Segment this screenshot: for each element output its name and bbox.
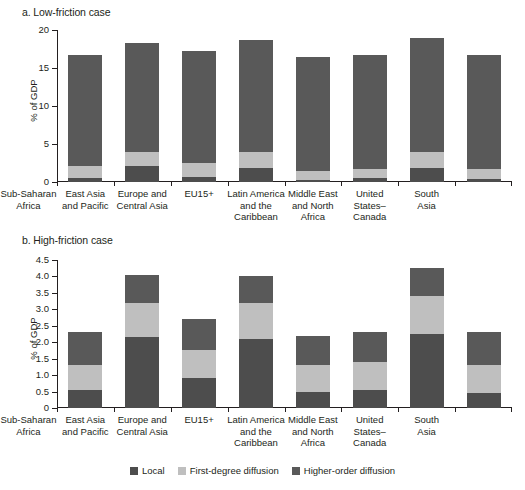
x-axis-tick — [398, 182, 399, 186]
bar-1 — [68, 55, 102, 182]
y-axis-tick-label: 20 — [38, 25, 49, 35]
panel-b-plot-area: 00.51.01.52.02.53.03.54.04.5 — [57, 260, 512, 408]
bar-segment-first-degree-diffusion — [68, 166, 102, 178]
bar-segment-higher-order-diffusion — [68, 55, 102, 166]
bar-segment-local — [239, 168, 273, 182]
legend-swatch-icon — [292, 467, 300, 475]
stacked-bar-figure: a. Low-friction case % of GDP 05101520 S… — [0, 0, 525, 490]
bar-segment-local — [410, 168, 444, 182]
y-axis-tick-label: 0.5 — [36, 387, 49, 397]
bar-segment-local — [125, 337, 159, 408]
x-axis-tick — [171, 408, 172, 412]
y-axis-tick — [52, 293, 57, 294]
x-axis-tick — [171, 182, 172, 186]
legend-item-higher-order-diffusion: Higher-order diffusion — [292, 465, 395, 476]
bar-2 — [125, 275, 159, 408]
y-axis-tick — [52, 276, 57, 277]
bar-8 — [467, 55, 501, 182]
y-axis-tick-label: 1.0 — [36, 370, 49, 380]
y-axis-tick-label: 4.5 — [36, 255, 49, 265]
x-axis-tick — [114, 408, 115, 412]
bar-segment-local — [296, 392, 330, 408]
legend-item-first-degree-diffusion: First-degree diffusion — [178, 465, 279, 476]
bar-segment-first-degree-diffusion — [296, 365, 330, 391]
x-axis-tick — [285, 182, 286, 186]
bar-segment-higher-order-diffusion — [353, 55, 387, 169]
bar-segment-local — [182, 177, 216, 182]
y-axis-tick-label: 0 — [44, 177, 49, 187]
chart-legend: LocalFirst-degree diffusionHigher-order … — [0, 465, 525, 476]
bar-5 — [296, 336, 330, 408]
bar-4 — [239, 40, 273, 182]
bar-segment-first-degree-diffusion — [410, 296, 444, 334]
x-axis-tick — [341, 182, 342, 186]
legend-label: First-degree diffusion — [190, 465, 279, 476]
bar-segment-first-degree-diffusion — [467, 365, 501, 393]
bar-segment-first-degree-diffusion — [467, 169, 501, 179]
panel-low-friction: a. Low-friction case % of GDP 05101520 S… — [0, 0, 525, 232]
legend-label: Higher-order diffusion — [304, 465, 395, 476]
bar-3 — [182, 319, 216, 408]
bar-segment-higher-order-diffusion — [239, 40, 273, 152]
y-axis-tick-label: 15 — [38, 63, 49, 73]
legend-swatch-icon — [178, 467, 186, 475]
bar-segment-first-degree-diffusion — [410, 152, 444, 168]
y-axis-tick — [52, 342, 57, 343]
bar-segment-higher-order-diffusion — [467, 332, 501, 365]
bar-segment-higher-order-diffusion — [125, 43, 159, 152]
y-axis-tick — [52, 106, 57, 107]
bar-segment-higher-order-diffusion — [410, 268, 444, 296]
bar-segment-local — [239, 339, 273, 408]
bar-segment-higher-order-diffusion — [182, 51, 216, 163]
legend-label: Local — [142, 465, 165, 476]
y-axis-tick — [52, 326, 57, 327]
y-axis-tick-label: 5 — [44, 139, 49, 149]
bar-2 — [125, 43, 159, 182]
bar-segment-first-degree-diffusion — [353, 169, 387, 178]
bar-segment-higher-order-diffusion — [125, 275, 159, 303]
bar-1 — [68, 332, 102, 408]
bar-segment-higher-order-diffusion — [296, 57, 330, 172]
y-axis-tick-label: 2.5 — [36, 321, 49, 331]
bar-6 — [353, 55, 387, 182]
x-axis-tick — [398, 408, 399, 412]
bar-segment-local — [296, 180, 330, 182]
bar-segment-first-degree-diffusion — [353, 362, 387, 390]
bar-segment-first-degree-diffusion — [182, 163, 216, 177]
y-axis-tick — [52, 260, 57, 261]
bar-segment-higher-order-diffusion — [68, 332, 102, 365]
bar-segment-first-degree-diffusion — [68, 365, 102, 390]
bar-segment-local — [410, 334, 444, 408]
y-axis-tick-label: 4.0 — [36, 272, 49, 282]
y-axis-tick — [52, 392, 57, 393]
bar-3 — [182, 51, 216, 182]
legend-swatch-icon — [130, 467, 138, 475]
x-axis-tick — [57, 408, 58, 412]
y-axis-tick-label: 0 — [44, 403, 49, 413]
bar-segment-local — [68, 390, 102, 408]
x-axis-tick — [114, 182, 115, 186]
panel-a-title: a. Low-friction case — [22, 6, 110, 18]
x-axis-tick — [228, 182, 229, 186]
x-axis-tick — [511, 408, 512, 412]
x-axis-tick — [341, 408, 342, 412]
x-axis-tick — [455, 408, 456, 412]
bar-8 — [467, 332, 501, 408]
bar-7 — [410, 268, 444, 408]
y-axis-tick-label: 2.0 — [36, 337, 49, 347]
panel-b-title: b. High-friction case — [22, 234, 113, 246]
bar-segment-first-degree-diffusion — [125, 303, 159, 338]
bar-7 — [410, 38, 444, 182]
bar-segment-first-degree-diffusion — [239, 152, 273, 167]
y-axis-tick — [52, 309, 57, 310]
bar-6 — [353, 332, 387, 408]
bar-segment-higher-order-diffusion — [467, 55, 501, 169]
legend-item-local: Local — [130, 465, 165, 476]
bar-segment-higher-order-diffusion — [296, 336, 330, 366]
x-axis-category-label: SouthAsia — [384, 414, 470, 437]
bar-segment-local — [353, 390, 387, 408]
y-axis-tick — [52, 375, 57, 376]
x-axis-tick — [228, 408, 229, 412]
bar-segment-local — [467, 393, 501, 408]
bar-segment-higher-order-diffusion — [182, 319, 216, 350]
